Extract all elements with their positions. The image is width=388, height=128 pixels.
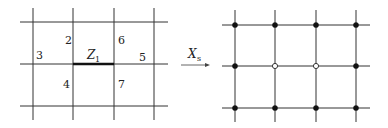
cell-label: 2 xyxy=(65,34,72,47)
filled-node-icon xyxy=(272,105,277,110)
cell-label: 3 xyxy=(36,49,43,62)
cell-label: 5 xyxy=(139,51,146,64)
arrow-label-xs: X xyxy=(187,47,197,61)
filled-node-icon xyxy=(353,63,358,68)
cell-label: 7 xyxy=(118,78,125,91)
filled-node-icon xyxy=(353,22,358,27)
arrow-label-subscript: s xyxy=(197,54,201,63)
transformation-arrow: Xs xyxy=(181,47,210,67)
left-grid xyxy=(20,8,168,120)
right-grid xyxy=(222,10,370,122)
grid-transformation-diagram: 263547Z1 Xs xyxy=(0,0,388,128)
filled-node-icon xyxy=(313,105,318,110)
arrow-head-icon xyxy=(205,63,210,67)
filled-node-icon xyxy=(232,63,237,68)
left-cell-labels: 263547Z1 xyxy=(36,34,146,91)
filled-node-icon xyxy=(353,105,358,110)
filled-node-icon xyxy=(313,22,318,27)
hollow-node-icon xyxy=(313,63,318,68)
hollow-node-icon xyxy=(272,63,277,68)
filled-node-icon xyxy=(232,105,237,110)
filled-node-icon xyxy=(232,22,237,27)
cell-label: 4 xyxy=(63,78,70,91)
cell-label: 6 xyxy=(118,34,125,47)
filled-node-icon xyxy=(272,22,277,27)
edge-label-subscript: 1 xyxy=(95,55,100,64)
